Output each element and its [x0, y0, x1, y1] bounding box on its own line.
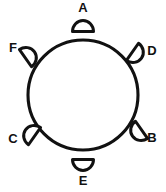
node-b-label: B [147, 130, 156, 145]
node-e-shape [73, 160, 94, 171]
diagram-canvas: ADBECF [0, 0, 166, 192]
circular-node-diagram: ADBECF [0, 0, 166, 192]
node-c-label: C [8, 131, 18, 146]
node-a-shape [73, 21, 94, 32]
half-disc-icon [73, 21, 94, 32]
node-a-label: A [78, 0, 88, 15]
node-e-label: E [79, 173, 88, 188]
half-disc-icon [73, 160, 94, 171]
node-d-label: D [147, 43, 156, 58]
node-f-label: F [9, 40, 17, 55]
